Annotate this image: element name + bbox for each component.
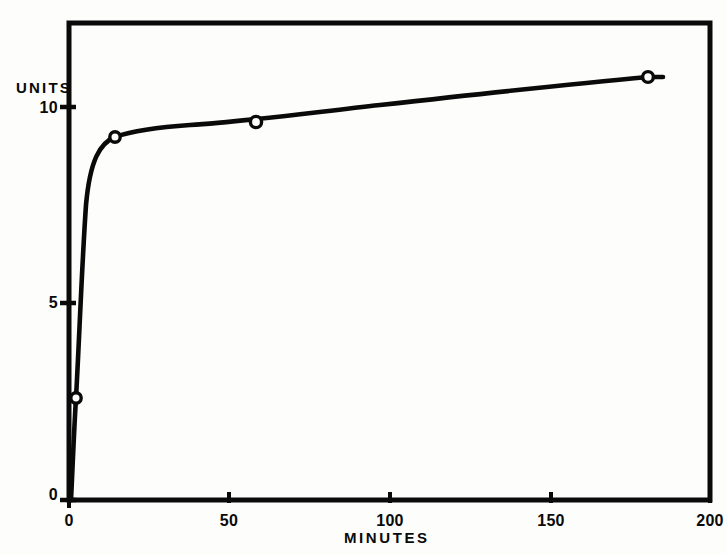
x-tick-label-0: 0 bbox=[34, 512, 104, 530]
x-tick-label-150: 150 bbox=[516, 512, 586, 530]
x-tick-label-200: 200 bbox=[675, 512, 727, 530]
data-point-marker bbox=[250, 116, 261, 127]
data-point-marker bbox=[643, 72, 654, 83]
axis-frame bbox=[69, 23, 710, 500]
data-point-marker bbox=[71, 393, 81, 403]
y-tick-label-10: 10 bbox=[12, 99, 58, 117]
chart-figure: UNITS 10 5 0 0 50 100 150 200 MINUTES bbox=[0, 0, 727, 555]
y-tick-label-0: 0 bbox=[12, 486, 58, 504]
data-point-markers bbox=[71, 72, 654, 404]
y-axis-title: UNITS bbox=[16, 79, 72, 96]
chart-plot-area bbox=[0, 0, 727, 555]
x-tick-label-50: 50 bbox=[194, 512, 264, 530]
x-axis-title: MINUTES bbox=[344, 529, 430, 546]
data-point-marker bbox=[110, 132, 120, 142]
x-tick-label-100: 100 bbox=[355, 512, 425, 530]
fitted-curve bbox=[71, 77, 663, 500]
y-tick-label-5: 5 bbox=[12, 294, 58, 312]
